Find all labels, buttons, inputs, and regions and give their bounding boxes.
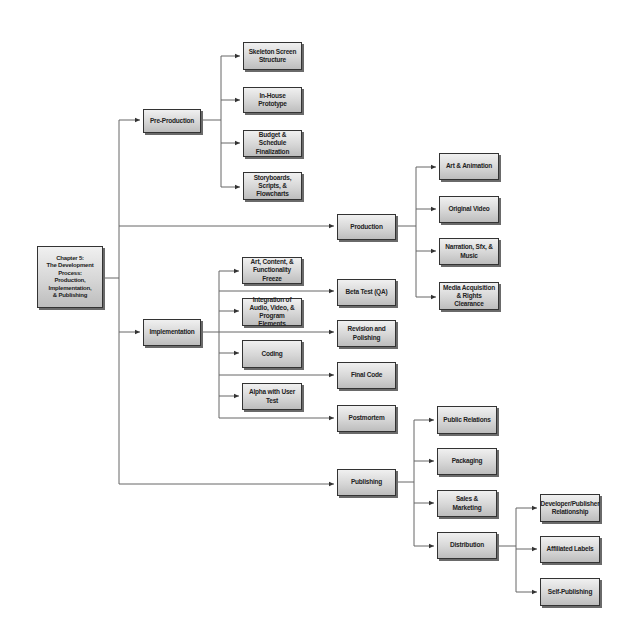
node-final-code: Final Code <box>337 362 396 389</box>
node-alpha-user-test: Alpha with User Test <box>242 383 302 410</box>
node-original-video: Original Video <box>439 196 499 223</box>
node-beta-test-qa: Beta Test (QA) <box>337 279 396 306</box>
node-pre-production: Pre-Production <box>143 109 201 133</box>
node-publishing: Publishing <box>337 469 396 496</box>
node-distribution: Distribution <box>437 532 497 559</box>
node-art-content-functionality-freeze: Art, Content, & Functionality Freeze <box>242 257 302 284</box>
node-storyboards-scripts-flowcharts: Storyboards, Scripts, & Flowcharts <box>243 172 302 200</box>
node-in-house-prototype: In-House Prototype <box>243 87 302 113</box>
node-revision-polishing: Revision and Polishing <box>337 320 396 347</box>
connector-lines <box>0 0 627 635</box>
node-developer-publisher-relationship: Developer/Publisher Relationship <box>540 494 600 522</box>
node-affiliated-labels: Affiliated Labels <box>540 536 600 563</box>
node-public-relations: Public Relations <box>437 406 497 434</box>
node-integration-audio-video-program: Integration of Audio, Video, & Program E… <box>242 298 302 326</box>
node-art-animation: Art & Animation <box>439 153 499 180</box>
node-budget-schedule-finalization: Budget & Schedule Finalization <box>243 130 302 157</box>
node-narration-sfx-music: Narration, Sfx, & Music <box>439 238 499 265</box>
node-postmortem: Postmortem <box>337 405 396 432</box>
development-process-diagram: Chapter 5: The Development Process: Prod… <box>0 0 627 635</box>
root-node-chapter-5: Chapter 5: The Development Process: Prod… <box>37 246 103 308</box>
node-packaging: Packaging <box>437 448 497 475</box>
node-implementation: Implementation <box>143 319 201 346</box>
node-sales-marketing: Sales & Marketing <box>437 490 497 517</box>
node-coding: Coding <box>242 340 302 368</box>
node-media-acquisition-rights: Media Acquisition & Rights Clearance <box>439 282 499 310</box>
node-production: Production <box>337 214 396 240</box>
node-self-publishing: Self-Publishing <box>540 578 600 606</box>
node-skeleton-screen-structure: Skeleton Screen Structure <box>243 42 302 70</box>
